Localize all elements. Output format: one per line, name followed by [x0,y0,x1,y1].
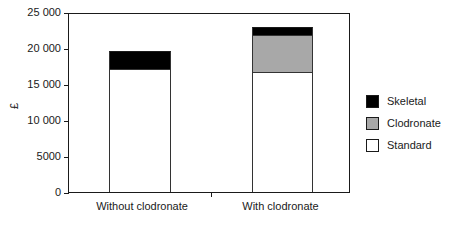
legend-swatch-skeletal [366,95,379,108]
legend-label: Clodronate [387,118,441,129]
y-axis-tick-label: 15 000 [5,79,61,90]
y-axis-tick-label: 10 000 [5,115,61,126]
legend-item-clodronate: Clodronate [366,112,456,134]
bar-0 [109,51,171,192]
legend-label: Skeletal [387,96,426,107]
y-axis-tick-label: 0 [5,187,61,198]
bar-segment-standard [109,70,171,192]
y-axis-tick-label: 5000 [5,151,61,162]
legend-swatch-clodronate [366,117,379,130]
plot-area [68,13,350,193]
y-axis-tick-mark [64,121,69,122]
legend-swatch-standard [366,139,379,152]
x-axis-tick [211,193,212,197]
x-axis-label-0: Without clodronate [72,200,212,213]
x-axis-label-1: With clodronate [213,200,348,213]
bar-segment-skeletal [109,51,171,70]
bar-segment-clodronate [252,36,313,73]
y-axis-tick-mark [64,49,69,50]
bar-segment-skeletal [252,27,313,36]
y-axis-tick-labels: 25 00020 00015 00010 00050000 [5,0,61,225]
legend: SkeletalClodronateStandard [366,90,456,156]
bar-chart: £ 25 00020 00015 00010 00050000 Without … [0,0,456,225]
y-axis-tick-label: 20 000 [5,43,61,54]
legend-item-skeletal: Skeletal [366,90,456,112]
bar-1 [252,27,313,192]
legend-item-standard: Standard [366,134,456,156]
y-axis-tick-label: 25 000 [5,7,61,18]
y-axis-tick-mark [64,13,69,14]
y-axis-tick-mark [64,157,69,158]
y-axis-tick-mark [64,85,69,86]
bar-segment-standard [252,73,313,192]
legend-label: Standard [387,140,432,151]
y-axis-tick-mark [64,193,69,194]
